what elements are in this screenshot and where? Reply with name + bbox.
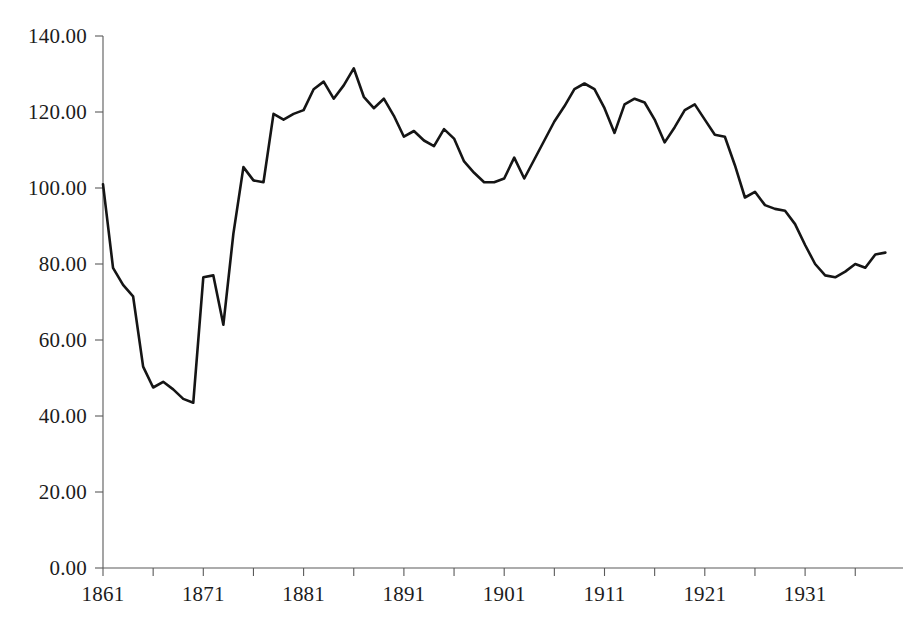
y-tick-label-1: 20.00 <box>0 482 87 503</box>
x-tick-label-5: 1911 <box>583 584 625 605</box>
y-tick-label-6: 120.00 <box>0 102 87 123</box>
x-tick-label-4: 1901 <box>483 584 526 605</box>
line-chart: 0.0020.0040.0060.0080.00100.00120.00140.… <box>0 0 919 634</box>
x-tick-label-0: 1861 <box>82 584 125 605</box>
data-series-line <box>103 68 885 402</box>
x-tick-label-2: 1881 <box>282 584 325 605</box>
y-tick-label-4: 80.00 <box>0 254 87 275</box>
y-tick-label-5: 100.00 <box>0 178 87 199</box>
y-tick-label-3: 60.00 <box>0 330 87 351</box>
chart-plot-area <box>0 0 919 634</box>
x-tick-label-7: 1931 <box>784 584 827 605</box>
y-tick-label-7: 140.00 <box>0 26 87 47</box>
x-tick-label-1: 1871 <box>182 584 225 605</box>
x-tick-label-6: 1921 <box>683 584 726 605</box>
y-tick-label-0: 0.00 <box>0 558 87 579</box>
y-tick-label-2: 40.00 <box>0 406 87 427</box>
x-tick-label-3: 1891 <box>382 584 425 605</box>
tick-marks-group <box>95 36 855 576</box>
axes-group <box>103 36 903 568</box>
